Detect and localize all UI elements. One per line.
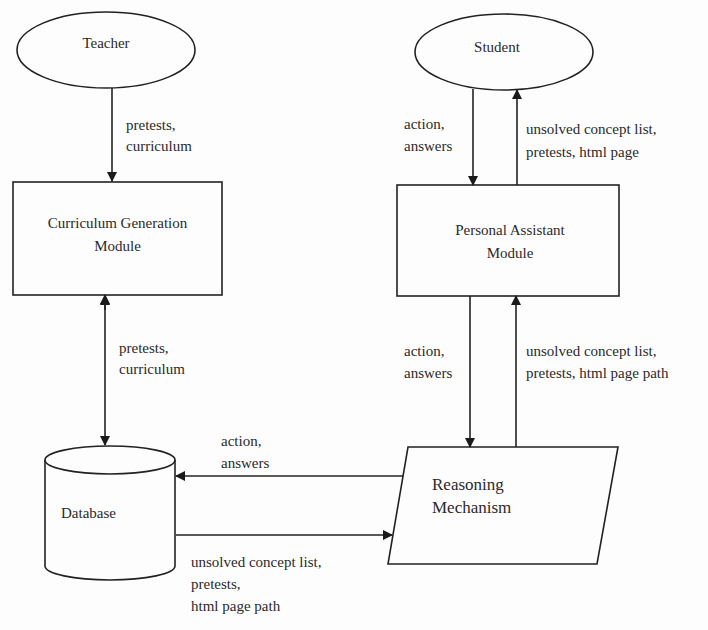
teacher-label: Teacher <box>56 34 156 53</box>
personal-assistant-label-line2: Module <box>420 244 600 263</box>
database-label: Database <box>61 504 116 523</box>
system-architecture-diagram: Teacher Student Curriculum Generation Mo… <box>0 0 708 630</box>
edge-label-cgm-db-1: pretests, <box>119 339 169 358</box>
diagram-shapes <box>0 0 708 630</box>
edge-label-rm-db-2: answers <box>221 454 269 473</box>
edge-label-pam-student-1: unsolved concept list, <box>526 120 656 139</box>
curriculum-module-label-line2: Module <box>13 237 222 256</box>
edge-label-db-rm-2: pretests, <box>191 575 241 594</box>
edge-label-student-pam-2: answers <box>404 137 452 156</box>
edge-label-student-pam-1: action, <box>404 115 444 134</box>
edge-label-rm-db-1: action, <box>221 432 261 451</box>
edge-label-db-rm-3: html page path <box>191 597 280 616</box>
curriculum-module-label-line1: Curriculum Generation <box>13 214 222 233</box>
edge-label-rm-pam-2: pretests, html page path <box>526 364 668 383</box>
personal-assistant-shape <box>397 185 619 296</box>
student-label: Student <box>447 38 547 57</box>
edge-label-rm-pam-1: unsolved concept list, <box>526 342 656 361</box>
reasoning-label-line1: Reasoning <box>432 475 504 494</box>
edge-label-pam-rm-2: answers <box>404 364 452 383</box>
personal-assistant-label-line1: Personal Assistant <box>420 221 600 240</box>
edge-label-db-rm-1: unsolved concept list, <box>191 553 321 572</box>
reasoning-label-line2: Mechanism <box>432 498 511 517</box>
edge-label-teacher-cgm-1: pretests, <box>126 116 176 135</box>
edge-label-pam-student-2: pretests, html page <box>526 143 639 162</box>
edge-label-cgm-db-2: curriculum <box>119 360 185 379</box>
edge-label-pam-rm-1: action, <box>404 342 444 361</box>
edge-label-teacher-cgm-2: curriculum <box>126 137 192 156</box>
